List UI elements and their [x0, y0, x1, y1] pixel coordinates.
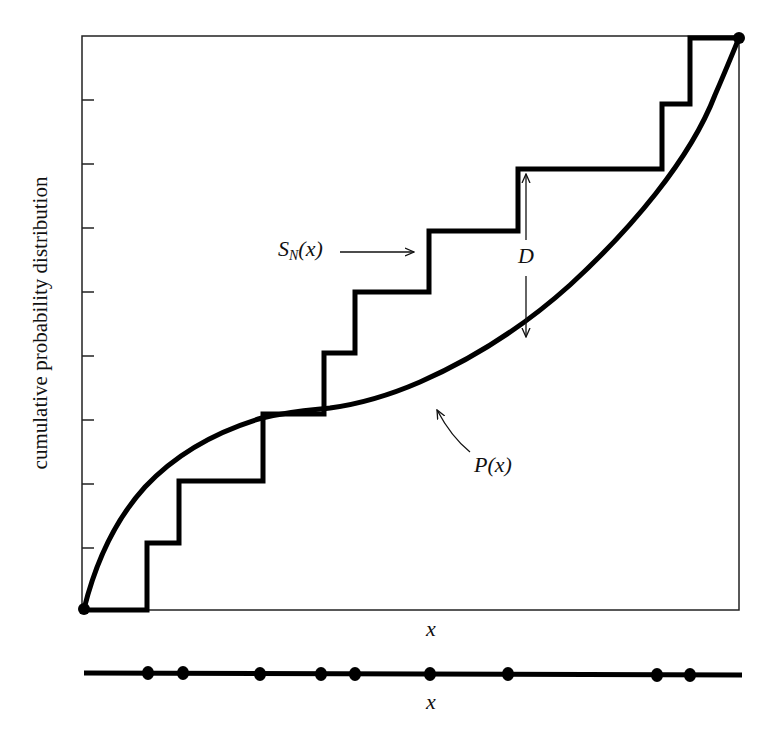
model-cdf-label: P(x)	[474, 452, 512, 478]
empirical-label-symbol: S	[278, 236, 289, 261]
x-axis-label: x	[426, 616, 436, 642]
model-cdf-curve	[84, 38, 739, 609]
empirical-label-arg: (x)	[298, 236, 322, 261]
ks-test-figure: cumulative probability distribution SN(x…	[0, 0, 776, 736]
model-label-arrow	[437, 410, 470, 452]
empirical-label-subscript: N	[289, 248, 298, 263]
y-axis-label: cumulative probability distribution	[28, 177, 53, 470]
number-line-label: x	[426, 689, 436, 715]
empirical-cdf-label: SN(x)	[278, 236, 323, 264]
cdf-plot	[0, 0, 776, 736]
y-axis-ticks	[82, 100, 94, 548]
empirical-cdf-steps	[84, 38, 739, 610]
start-point	[78, 603, 90, 615]
d-statistic-label: D	[518, 243, 534, 269]
end-point	[733, 32, 745, 44]
